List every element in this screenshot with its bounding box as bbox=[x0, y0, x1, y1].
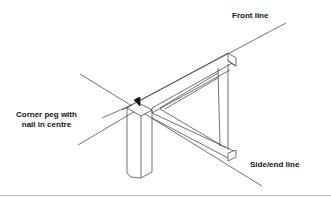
corner-peg-label-line2: nail in centre bbox=[16, 120, 77, 130]
side-string-line bbox=[80, 74, 262, 186]
side-profile-rail bbox=[152, 109, 236, 161]
side-end-line-label: Side/end line bbox=[250, 160, 299, 170]
bottom-divider bbox=[0, 195, 331, 196]
corner-peg-label-line1: Corner peg with bbox=[16, 110, 77, 120]
peg-leader-upper bbox=[102, 104, 134, 118]
front-profile-rail bbox=[139, 53, 236, 113]
front-line-label: Front line bbox=[232, 11, 268, 21]
back-post bbox=[218, 64, 228, 150]
corner-peg-label: Corner peg with nail in centre bbox=[16, 110, 77, 130]
